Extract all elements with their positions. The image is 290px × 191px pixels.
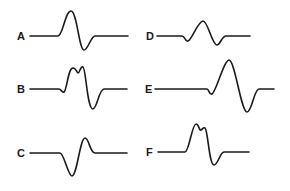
panel-f: F — [146, 124, 249, 165]
panel-c: C — [17, 138, 127, 176]
panel-a: A — [17, 11, 128, 50]
waveform-f — [158, 124, 249, 165]
waveform-b — [30, 67, 127, 109]
panel-label-d: D — [146, 30, 154, 42]
panel-e: E — [145, 60, 274, 112]
panel-label-c: C — [17, 147, 25, 159]
panel-label-f: F — [146, 146, 153, 158]
panel-d: D — [146, 21, 250, 45]
waveform-figure: A B C D E F — [0, 0, 290, 191]
waveform-e — [155, 60, 274, 112]
panel-label-e: E — [145, 83, 152, 95]
panel-label-b: B — [17, 83, 25, 95]
waveform-c — [30, 138, 127, 176]
waveform-d — [157, 21, 250, 45]
panel-label-a: A — [17, 30, 25, 42]
panel-b: B — [17, 67, 127, 109]
waveform-a — [30, 11, 128, 50]
